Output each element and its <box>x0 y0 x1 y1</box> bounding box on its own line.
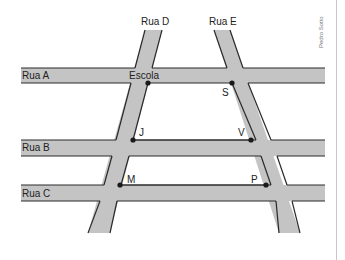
label-escola: Escola <box>129 71 159 81</box>
label-j: J <box>139 128 144 138</box>
label-s: S <box>222 88 229 98</box>
street-fills <box>21 30 325 233</box>
label-p: P <box>251 175 258 185</box>
page-margin-line <box>336 0 337 260</box>
photo-credit: Pedro Sotto <box>318 16 324 48</box>
label-rua-b: Rua B <box>22 143 50 153</box>
street-rua-b <box>21 140 325 156</box>
label-v: V <box>238 128 245 138</box>
label-rua-a: Rua A <box>22 71 49 81</box>
street-rua-a <box>21 68 325 83</box>
point-m <box>117 182 122 187</box>
street-map <box>0 0 345 260</box>
point-v <box>248 137 253 142</box>
street-rua-e <box>214 30 300 233</box>
label-rua-d: Rua D <box>141 17 169 27</box>
point-j <box>130 137 135 142</box>
label-rua-e: Rua E <box>209 17 237 27</box>
label-m: M <box>127 175 135 185</box>
point-p <box>263 182 268 187</box>
point-s <box>229 80 234 85</box>
point-escola <box>145 80 150 85</box>
label-rua-c: Rua C <box>22 189 50 199</box>
